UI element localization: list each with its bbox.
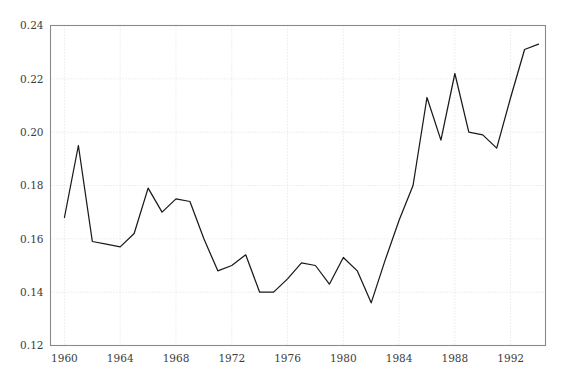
chart-container: 0.120.140.160.180.200.220.24 19601964196… xyxy=(0,0,573,382)
data-series-line xyxy=(64,44,538,303)
y-axis-tick-label: 0.14 xyxy=(20,286,44,298)
x-axis-tick-label: 1992 xyxy=(497,352,524,364)
x-axis-tick-label: 1972 xyxy=(218,352,245,364)
x-axis-tick-labels: 196019641968197219761980198419881992 xyxy=(51,352,524,364)
x-axis-tick-label: 1984 xyxy=(386,352,413,364)
line-chart: 0.120.140.160.180.200.220.24 19601964196… xyxy=(0,0,573,382)
y-axis-tick-label: 0.20 xyxy=(20,126,43,138)
x-axis-tick-label: 1988 xyxy=(441,352,468,364)
x-axis-tick-label: 1960 xyxy=(51,352,78,364)
y-axis-tick-label: 0.16 xyxy=(20,233,44,245)
x-axis-tick-label: 1968 xyxy=(163,352,190,364)
x-axis-tick-label: 1964 xyxy=(107,352,134,364)
y-axis-tick-label: 0.18 xyxy=(20,179,43,191)
x-axis-tick-label: 1976 xyxy=(274,352,301,364)
y-axis-tick-label: 0.22 xyxy=(20,73,43,85)
gridlines-group xyxy=(51,26,546,346)
y-axis-tick-labels: 0.120.140.160.180.200.220.24 xyxy=(20,19,44,351)
x-axis-tick-label: 1980 xyxy=(330,352,357,364)
y-axis-tick-label: 0.24 xyxy=(20,19,44,31)
y-axis-tick-label: 0.12 xyxy=(20,339,43,351)
